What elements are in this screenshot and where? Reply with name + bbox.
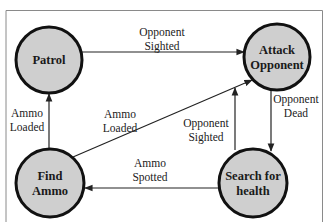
edge-label-patrol-to-attack: OpponentSighted <box>139 26 185 53</box>
edge-label-find_ammo-to-patrol: AmmoLoaded <box>10 107 45 133</box>
state-label: Patrol <box>32 53 66 67</box>
edge-label-search_health-to-find_ammo: AmmoSpotted <box>132 157 167 184</box>
state-node-find-ammo: FindAmmo <box>16 149 84 217</box>
edge-label-search_health-to-attack: OpponentSighted <box>183 117 229 144</box>
state-node-attack: AttackOpponent <box>244 24 310 90</box>
state-node-patrol: Patrol <box>16 27 82 93</box>
state-node-search-health: Search forhealth <box>219 149 287 217</box>
edge-label-find_ammo-to-attack: AmmoLoaded <box>103 108 138 134</box>
edge-label-attack-to-search_health: OpponentDead <box>273 93 319 119</box>
state-diagram: OpponentSightedAmmoLoadedAmmoLoadedOppon… <box>0 0 328 222</box>
